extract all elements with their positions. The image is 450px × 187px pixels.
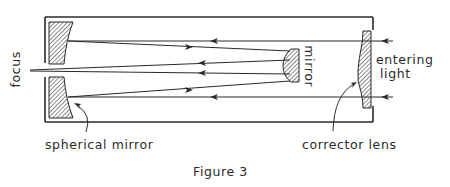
entering-light-label-line1: entering: [376, 54, 433, 67]
focus-label: focus: [10, 49, 23, 89]
spherical-mirror: [49, 22, 73, 118]
figure-caption: Figure 3: [193, 166, 248, 179]
entering-light-label-line2: light: [380, 68, 411, 81]
telescope-diagram: [0, 0, 450, 187]
secondary-mirror: [283, 49, 299, 82]
corrector-lens-label: corrector lens: [302, 139, 397, 152]
spherical-mirror-label: spherical mirror: [45, 139, 153, 152]
light-rays: [30, 41, 393, 97]
telescope-tube: [45, 17, 373, 122]
label-pointers: [78, 84, 354, 132]
corrector-lens: [358, 31, 371, 108]
secondary-mirror-label: mirror: [303, 44, 316, 88]
